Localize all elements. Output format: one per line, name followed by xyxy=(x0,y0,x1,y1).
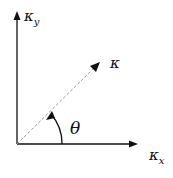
y-axis-label-main: κ xyxy=(24,7,34,25)
x-axis-label: κx xyxy=(149,148,164,163)
x-axis-label-sub: x xyxy=(159,155,165,166)
x-axis-arrowhead xyxy=(129,141,138,148)
y-axis-arrowhead xyxy=(14,11,21,20)
y-axis-label-sub: y xyxy=(34,16,40,27)
vector-dashed-line xyxy=(17,68,94,144)
vector-arrowhead xyxy=(90,62,100,72)
angle-label-text: θ xyxy=(70,118,80,138)
x-axis-label-main: κ xyxy=(149,146,159,164)
angle-arc-arrowhead xyxy=(46,111,55,120)
vector-label-text: κ xyxy=(110,54,120,72)
vector-label: κ xyxy=(110,56,120,71)
diagram-canvas xyxy=(0,0,173,178)
y-axis-label: κy xyxy=(24,9,40,24)
angle-label: θ xyxy=(70,120,80,137)
